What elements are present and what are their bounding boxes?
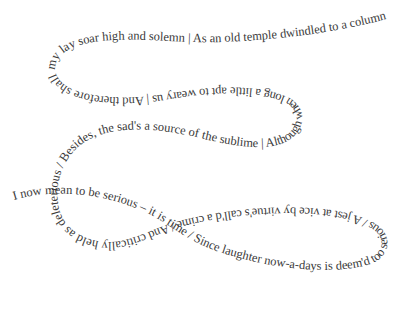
poem-svg: I now mean to be serious – it is time / … bbox=[0, 0, 396, 321]
serpentine-poem-figure: I now mean to be serious – it is time / … bbox=[0, 0, 396, 321]
poem-textpath: I now mean to be serious – it is time / … bbox=[11, 8, 391, 273]
poem-text-on-path: I now mean to be serious – it is time / … bbox=[11, 8, 391, 273]
